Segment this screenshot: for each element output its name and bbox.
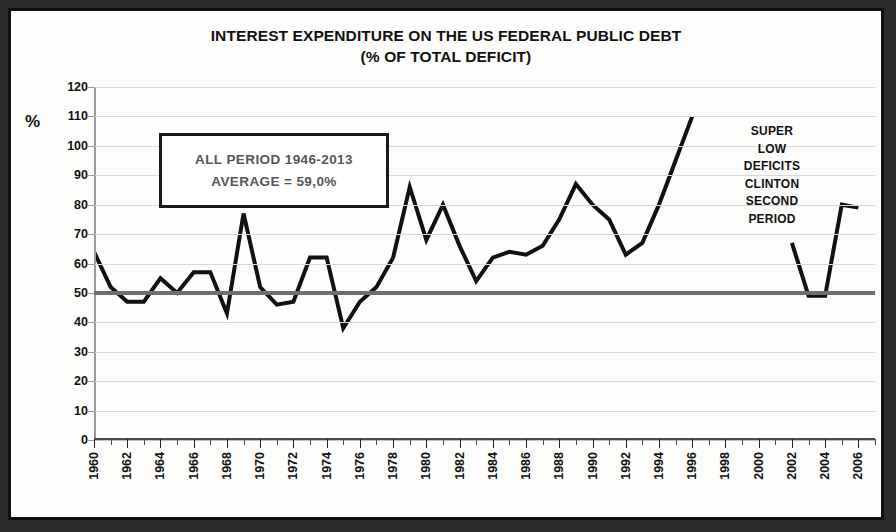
x-tick-1971 [277, 439, 278, 445]
x-tick-1984 [493, 439, 494, 448]
x-tick-label-1972: 1972 [286, 452, 300, 480]
y-tick-80 [87, 205, 95, 206]
x-tick-label-1966: 1966 [187, 452, 201, 480]
x-tick-2000 [759, 439, 760, 448]
x-tick-1979 [410, 439, 411, 445]
y-tick-label-90: 90 [74, 168, 88, 182]
gridline-y-70 [94, 234, 875, 235]
x-tick-label-1974: 1974 [320, 452, 334, 480]
x-tick-label-1980: 1980 [419, 452, 433, 480]
clinton-note-line1: SUPER [711, 123, 833, 141]
x-tick-1973 [310, 439, 311, 445]
x-tick-1994 [659, 439, 660, 448]
y-tick-label-40: 40 [74, 315, 88, 329]
average-box-line2: AVERAGE = 59,0% [211, 174, 336, 189]
x-tick-label-1998: 1998 [718, 452, 732, 480]
x-tick-label-1968: 1968 [220, 452, 234, 480]
gridline-y-110 [94, 116, 875, 117]
x-tick-1986 [526, 439, 527, 448]
x-tick-1989 [576, 439, 577, 445]
y-tick-10 [87, 411, 95, 412]
y-tick-60 [87, 264, 95, 265]
x-tick-1985 [509, 439, 510, 445]
gridline-y-120 [94, 87, 875, 88]
clinton-note-line3: DEFICITS [711, 158, 833, 176]
x-tick-1974 [327, 439, 328, 448]
x-tick-1977 [376, 439, 377, 445]
x-tick-2001 [775, 439, 776, 445]
x-tick-label-1982: 1982 [453, 452, 467, 480]
x-tick-label-2004: 2004 [818, 452, 832, 480]
chart-canvas: INTEREST EXPENDITURE ON THE US FEDERAL P… [11, 11, 881, 517]
x-tick-1965 [177, 439, 178, 445]
x-tick-1995 [676, 439, 677, 445]
average-box-line1: ALL PERIOD 1946-2013 [195, 152, 353, 167]
x-tick-1967 [210, 439, 211, 445]
x-tick-1981 [443, 439, 444, 445]
x-tick-1996 [692, 439, 693, 448]
chart-frame: INTEREST EXPENDITURE ON THE US FEDERAL P… [8, 8, 884, 520]
x-tick-label-2002: 2002 [785, 452, 799, 480]
y-tick-70 [87, 234, 95, 235]
x-tick-label-1984: 1984 [486, 452, 500, 480]
y-tick-label-10: 10 [74, 404, 88, 418]
x-tick-1964 [160, 439, 161, 448]
y-axis-tick-labels: 0102030405060708090100110120 [31, 87, 88, 440]
y-tick-label-50: 50 [74, 286, 88, 300]
x-tick-1980 [426, 439, 427, 448]
x-tick-label-1970: 1970 [253, 452, 267, 480]
x-tick-1963 [144, 439, 145, 445]
y-tick-label-70: 70 [74, 227, 88, 241]
clinton-annotation: SUPER LOW DEFICITS CLINTON SECOND PERIOD [711, 123, 833, 228]
x-tick-1976 [360, 439, 361, 448]
x-tick-1961 [111, 439, 112, 445]
x-tick-1970 [260, 439, 261, 448]
x-tick-label-1986: 1986 [519, 452, 533, 480]
average-reference-line [94, 291, 875, 295]
y-tick-90 [87, 175, 95, 176]
x-tick-1992 [626, 439, 627, 448]
y-tick-20 [87, 381, 95, 382]
x-tick-label-2000: 2000 [752, 452, 766, 480]
x-tick-1969 [244, 439, 245, 445]
x-tick-1990 [593, 439, 594, 448]
clinton-note-line6: PERIOD [711, 211, 833, 229]
x-tick-1997 [709, 439, 710, 445]
x-tick-label-1962: 1962 [120, 452, 134, 480]
y-tick-label-110: 110 [68, 109, 88, 123]
x-tick-1982 [460, 439, 461, 448]
gridline-y-20 [94, 381, 875, 382]
x-tick-label-1978: 1978 [386, 452, 400, 480]
y-tick-100 [87, 146, 95, 147]
x-tick-1975 [343, 439, 344, 445]
x-tick-1998 [725, 439, 726, 448]
x-tick-1966 [194, 439, 195, 448]
x-tick-2003 [809, 439, 810, 445]
y-tick-120 [87, 87, 95, 88]
gridline-y-40 [94, 322, 875, 323]
x-tick-label-1964: 1964 [153, 452, 167, 480]
x-tick-1962 [127, 439, 128, 448]
x-tick-label-1996: 1996 [685, 452, 699, 480]
x-tick-1987 [543, 439, 544, 445]
x-tick-label-2006: 2006 [851, 452, 865, 480]
x-tick-1993 [642, 439, 643, 445]
clinton-note-line4: CLINTON [711, 176, 833, 194]
y-tick-30 [87, 352, 95, 353]
y-tick-label-80: 80 [74, 198, 88, 212]
chart-title-line2: (% OF TOTAL DEFICIT) [11, 46, 881, 67]
x-tick-label-1988: 1988 [552, 452, 566, 480]
y-tick-label-60: 60 [74, 257, 88, 271]
y-tick-label-100: 100 [67, 139, 88, 153]
x-tick-2002 [792, 439, 793, 448]
x-tick-1960 [94, 439, 95, 448]
chart-title-line1: INTEREST EXPENDITURE ON THE US FEDERAL P… [211, 27, 682, 44]
x-tick-label-1960: 1960 [87, 452, 101, 480]
x-tick-1972 [293, 439, 294, 448]
clinton-note-line2: LOW [711, 141, 833, 159]
gridline-y-30 [94, 352, 875, 353]
x-tick-1983 [476, 439, 477, 445]
x-axis-tick-labels: 1960196219641966196819701972197419761978… [94, 448, 875, 520]
chart-title: INTEREST EXPENDITURE ON THE US FEDERAL P… [11, 25, 881, 67]
x-tick-2007 [875, 439, 876, 445]
